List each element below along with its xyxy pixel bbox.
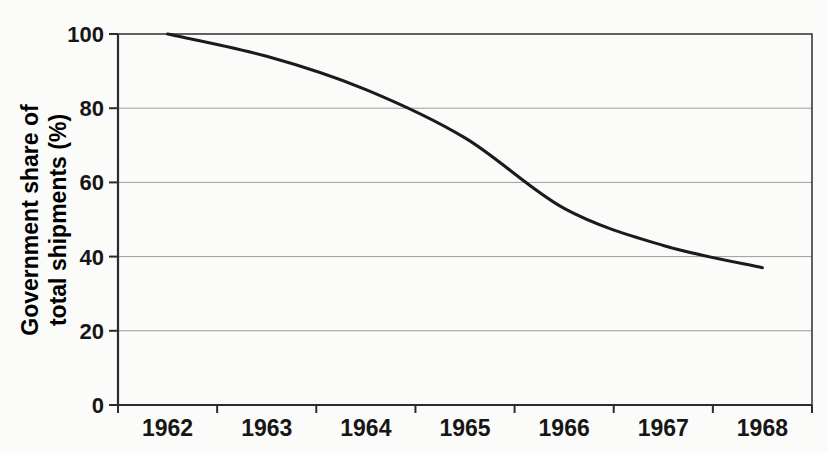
y-tick-label: 80 [80, 96, 104, 121]
y-tick-label: 100 [67, 22, 104, 47]
y-axis-title-line1: Government share of [17, 104, 43, 336]
y-axis-title: Government share of total shipments (%) [17, 104, 71, 336]
tick-labels: 0204060801001962196319641965196619671968 [67, 22, 788, 441]
line-chart-figure: 0204060801001962196319641965196619671968… [0, 0, 828, 453]
line-chart: 0204060801001962196319641965196619671968… [0, 0, 828, 453]
x-tick-label: 1962 [142, 415, 193, 441]
x-tick-label: 1967 [638, 415, 689, 441]
y-tick-label: 40 [80, 245, 104, 270]
data-series [168, 34, 763, 268]
government-share-line [168, 34, 763, 268]
y-axis-title-line2: total shipments (%) [45, 114, 71, 326]
x-tick-label: 1963 [241, 415, 292, 441]
plot-border [118, 34, 812, 405]
x-tick-label: 1965 [439, 415, 490, 441]
x-tick-label: 1964 [340, 415, 391, 441]
y-tick-label: 60 [80, 170, 104, 195]
x-tick-label: 1968 [737, 415, 788, 441]
plot-frame [118, 34, 812, 405]
y-tick-label: 20 [80, 319, 104, 344]
x-tick-label: 1966 [539, 415, 590, 441]
gridlines [118, 108, 812, 331]
y-tick-label: 0 [92, 393, 104, 418]
axis-ticks [109, 34, 812, 413]
